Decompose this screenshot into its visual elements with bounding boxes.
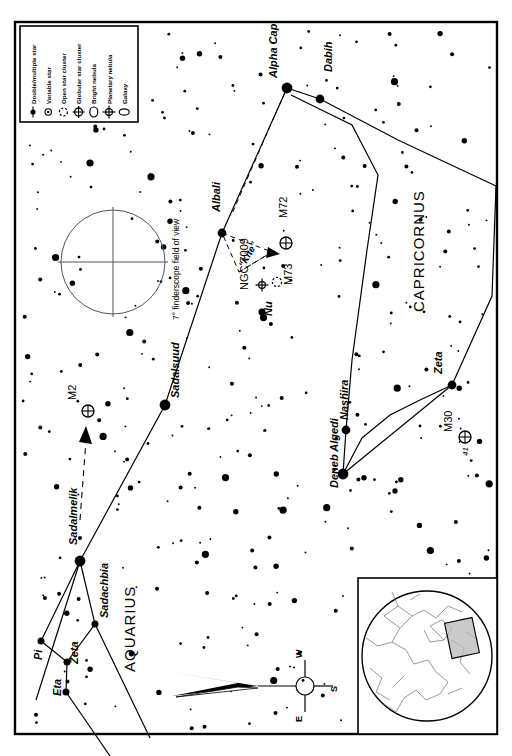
deep-sky-label: M30 [442,411,454,432]
star-label: Sadalsuud [169,342,181,398]
legend-item-label: Planetary nebula [106,54,113,104]
all-sky-inset [358,578,497,734]
star-marker [342,426,351,435]
legend-item-label: Open star cluster [60,53,67,104]
sky-map: 7° finderscope field of view Alpha CapDa… [0,0,512,756]
legend-item-label: Galaxy [121,83,128,104]
deep-sky-label: M73 [282,264,294,285]
deep-sky-label: M2 [66,385,78,400]
star-marker [218,229,227,238]
star-label: Deneb Algedi [328,417,340,488]
star-label: Nashira [338,380,350,420]
constellation-label-aquarius: AQUARIUS [121,586,138,672]
star-marker [38,638,45,645]
star-label: Eta [51,679,63,696]
deep-sky-label: M72 [277,197,289,218]
star-label: Pi [32,649,44,660]
deep-sky-label: 41 [461,447,470,456]
star-label: Nu [262,301,274,316]
star-marker [282,83,293,94]
compass-label-south: S [329,686,339,692]
star-label: Dabih [322,41,334,72]
globular-cluster-symbol [82,405,94,417]
legend-item-label: Bright nebula [90,64,97,104]
star-label: Albali [210,181,222,213]
star-label: Sadalmelik [67,487,79,545]
star-marker [448,381,457,390]
constellation-label-capricornus: CAPRICORNUS [410,190,427,312]
compass-label-east: E [294,716,304,722]
legend-item-label: Double/multiple star [30,44,37,104]
star-label: Zeta [68,641,80,665]
finderscope-label: 7° finderscope field of view [171,218,181,320]
star-chart-root: 7° finderscope field of view Alpha CapDa… [0,0,512,756]
star-label: Alpha Cap [267,23,279,79]
globular-cluster-symbol [280,237,292,249]
star-marker [160,400,171,411]
globular-cluster-symbol [459,431,471,443]
star-marker [63,689,70,696]
legend-item-label: Variable star [45,67,52,104]
star-label: Zeta [432,351,444,375]
legend-item-label: Globular star cluster [75,43,82,104]
star-marker [75,556,86,567]
star-marker [92,621,99,628]
star-marker [316,95,325,104]
compass-label-west: W [294,649,304,658]
star-label: Sadachbia [98,563,110,618]
